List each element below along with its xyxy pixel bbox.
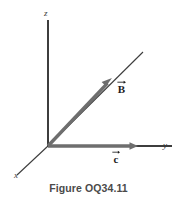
figure-container: ∙ ∙∙ ∙ ∙ z y x B <box>0 0 177 201</box>
vector-c-glyph: c <box>112 154 120 165</box>
figure-caption: Figure OQ34.11 <box>0 182 177 194</box>
vector-b-shaft <box>48 83 108 146</box>
x-axis-line <box>17 146 48 175</box>
vector-c-head <box>130 142 139 150</box>
vector-c-label: c <box>112 154 120 165</box>
vector-c-arrow <box>48 142 138 150</box>
y-axis-label: y <box>163 141 167 150</box>
vector-b-label: B <box>117 84 126 95</box>
vector-b-glyph: B <box>117 84 126 95</box>
vector-b-arrow <box>48 78 112 146</box>
z-axis-label: z <box>44 9 48 18</box>
coordinate-axes-diagram <box>0 0 177 201</box>
x-axis-label: x <box>14 171 18 180</box>
